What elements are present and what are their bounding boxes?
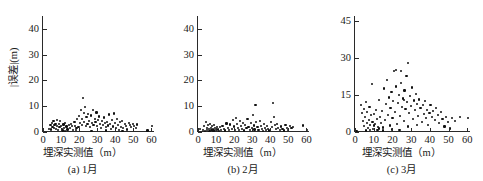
scatter-point	[427, 124, 429, 126]
scatter-point	[419, 107, 421, 109]
scatter-point	[403, 120, 405, 122]
scatter-point	[373, 124, 375, 126]
y-tick	[43, 80, 47, 81]
scatter-point	[454, 120, 456, 122]
scatter-point	[213, 124, 215, 126]
scatter-point	[363, 108, 365, 110]
scatter-point	[369, 129, 371, 131]
x-tick	[449, 128, 450, 132]
scatter-point	[75, 129, 77, 131]
scatter-point	[395, 69, 397, 71]
scatter-point	[100, 127, 102, 129]
scatter-point	[415, 93, 417, 95]
x-tick-label: 0	[352, 135, 357, 146]
scatter-point	[410, 105, 412, 107]
scatter-point	[385, 103, 387, 105]
scatter-point	[388, 96, 390, 98]
scatter-point	[92, 124, 94, 126]
y-tick	[198, 55, 202, 56]
y-tick-label: 30	[184, 49, 195, 60]
scatter-point	[422, 104, 424, 106]
y-tick-label: 30	[29, 49, 40, 60]
scatter-point	[122, 127, 124, 129]
scatter-point	[239, 120, 241, 122]
scatter-point	[109, 123, 111, 125]
scatter-point	[130, 126, 132, 128]
scatter-point	[87, 113, 89, 115]
scatter-point	[76, 118, 78, 120]
scatter-point	[440, 111, 442, 113]
y-tick	[355, 58, 359, 59]
scatter-point	[379, 116, 381, 118]
y-tick-label: 20	[29, 75, 40, 86]
scatter-point	[368, 106, 370, 108]
y-tick-label: 40	[29, 24, 40, 35]
scatter-point	[106, 121, 108, 123]
x-tick	[115, 128, 116, 132]
scatter-point	[389, 124, 391, 126]
x-tick	[288, 128, 289, 132]
panel-c-x-axis-title: 埋深实测值（m）	[320, 148, 483, 159]
scatter-point	[78, 115, 80, 117]
scatter-point	[447, 121, 449, 123]
panel-c-caption: (c) 3月	[320, 165, 483, 176]
scatter-point	[89, 126, 91, 128]
x-tick	[252, 128, 253, 132]
scatter-point	[416, 124, 418, 126]
scatter-point	[381, 110, 383, 112]
y-tick-label: 10	[29, 101, 40, 112]
x-tick-label: 40	[265, 135, 276, 146]
scatter-point	[423, 113, 425, 115]
scatter-point	[64, 130, 66, 132]
scatter-point	[88, 120, 90, 122]
scatter-point	[404, 108, 406, 110]
scatter-point	[459, 116, 461, 118]
scatter-point	[386, 79, 388, 81]
x-tick	[306, 128, 307, 132]
panel-a-caption: (a) 1月	[0, 165, 165, 176]
scatter-point	[467, 117, 469, 119]
scatter-point	[383, 87, 385, 89]
scatter-point	[86, 123, 88, 125]
scatter-point	[378, 127, 380, 129]
scatter-point	[397, 102, 399, 104]
scatter-point	[69, 127, 71, 129]
scatter-point	[392, 100, 394, 102]
scatter-point	[406, 101, 408, 103]
scatter-point	[362, 120, 364, 122]
scatter-point	[232, 119, 234, 121]
scatter-point	[378, 99, 380, 101]
x-tick	[234, 128, 235, 132]
scatter-point	[256, 126, 258, 128]
x-tick-label: 0	[40, 135, 45, 146]
x-tick	[467, 128, 468, 132]
scatter-point	[254, 104, 256, 106]
scatter-point	[266, 125, 268, 127]
scatter-point	[56, 119, 58, 121]
scatter-point	[395, 85, 397, 87]
scatter-point	[118, 129, 120, 131]
x-tick	[355, 128, 356, 132]
scatter-point	[376, 118, 378, 120]
x-tick-label: 10	[56, 135, 67, 146]
scatter-point	[50, 128, 52, 130]
scatter-point	[408, 112, 410, 114]
x-tick-label: 10	[211, 135, 222, 146]
scatter-point	[240, 125, 242, 127]
scatter-point	[263, 123, 265, 125]
scatter-point	[257, 129, 259, 131]
scatter-point	[235, 117, 237, 119]
scatter-point	[205, 121, 207, 123]
x-tick	[133, 128, 134, 132]
scatter-point	[371, 83, 373, 85]
scatter-point	[283, 129, 285, 131]
scatter-point	[113, 112, 115, 114]
y-tick	[43, 55, 47, 56]
scatter-point	[424, 100, 426, 102]
y-tick	[198, 132, 202, 133]
scatter-point	[136, 123, 138, 125]
scatter-point	[425, 117, 427, 119]
x-tick-label: 60	[462, 135, 473, 146]
scatter-point	[252, 114, 254, 116]
y-tick	[43, 106, 47, 107]
